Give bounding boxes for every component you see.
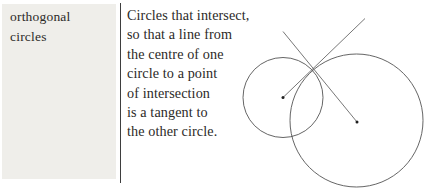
small-circle-center-dot	[282, 96, 285, 99]
orthogonal-circles-figure	[0, 0, 439, 189]
large-circle	[290, 54, 423, 187]
tangent-line-from-small-center	[283, 19, 365, 98]
dictionary-page: orthogonal circles Circles that intersec…	[0, 0, 439, 189]
tangent-line-from-large-center	[283, 32, 357, 123]
large-circle-center-dot	[356, 121, 359, 124]
